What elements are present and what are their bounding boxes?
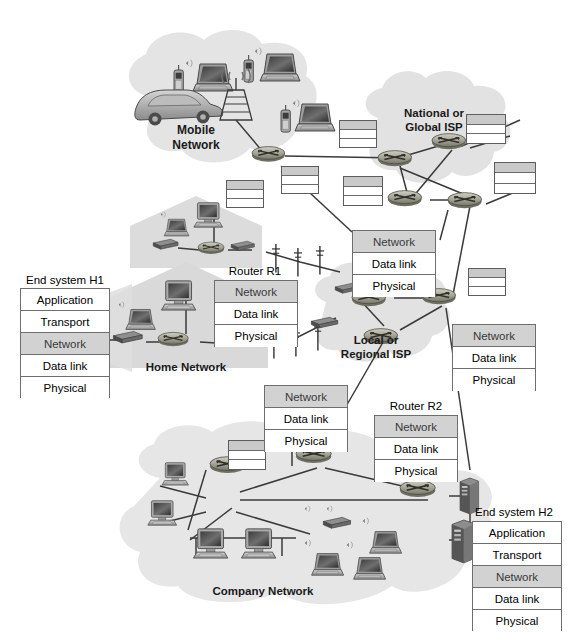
stack-title-r1: Router R1: [212, 265, 298, 277]
layer-physical: Physical: [21, 377, 109, 399]
protocol-stack-isp-egress: Network Data link Physical: [452, 324, 536, 391]
protocol-stack-h1: Application Transport Network Data link …: [20, 288, 110, 398]
layer-application: Application: [21, 289, 109, 311]
server-rack-icon: [281, 166, 319, 194]
server-rack-icon: [494, 162, 536, 194]
router-icon-mobile: [252, 147, 285, 162]
server-rack-icon: [468, 268, 506, 296]
layer-data-link: Data link: [265, 408, 347, 430]
protocol-stack-r2: Network Data link Physical: [374, 415, 458, 482]
protocol-stack-r1: Network Data link Physical: [214, 280, 298, 347]
region-label-home-network: Home Network: [131, 360, 241, 374]
layer-network: Network: [375, 416, 457, 438]
layer-network: Network: [215, 281, 297, 303]
stack-title-r2: Router R2: [370, 400, 462, 412]
layer-data-link: Data link: [215, 303, 297, 325]
stack-title-h2: End system H2: [464, 506, 564, 518]
layer-network: Network: [265, 386, 347, 408]
region-label-national-isp: National or Global ISP: [388, 106, 480, 134]
layer-network: Network: [453, 325, 535, 347]
layer-data-link: Data link: [375, 438, 457, 460]
layer-network: Network: [473, 566, 561, 588]
protocol-stack-company-ingress: Network Data link Physical: [264, 385, 348, 452]
layer-network: Network: [21, 333, 109, 355]
region-label-mobile-network: Mobile Network: [158, 123, 234, 152]
cell-tower-icon: [220, 69, 252, 120]
stack-title-h1: End system H1: [18, 274, 112, 286]
layer-physical: Physical: [473, 610, 561, 632]
layer-data-link: Data link: [453, 347, 535, 369]
server-rack-icon: [228, 440, 266, 470]
layer-application: Application: [473, 522, 561, 544]
server-rack-icon: [226, 180, 264, 208]
server-tower-icon: [452, 520, 474, 563]
server-rack-icon: [343, 176, 383, 206]
layer-physical: Physical: [375, 460, 457, 482]
layer-physical: Physical: [353, 275, 435, 297]
car-icon: [135, 90, 223, 126]
layer-transport: Transport: [21, 311, 109, 333]
layer-network: Network: [353, 231, 435, 253]
region-label-local-isp: Local or Regional ISP: [328, 333, 424, 361]
protocol-stack-isp-ingress: Network Data link Physical: [352, 230, 436, 297]
layer-physical: Physical: [265, 430, 347, 452]
layer-data-link: Data link: [21, 355, 109, 377]
layer-data-link: Data link: [353, 253, 435, 275]
server-rack-icon: [339, 120, 377, 148]
national-isp-routers: [378, 134, 482, 209]
layer-physical: Physical: [453, 369, 535, 391]
network-diagram-canvas: Mobile Network National or Global ISP Lo…: [0, 0, 583, 640]
region-label-company-network: Company Network: [198, 584, 328, 598]
layer-transport: Transport: [473, 544, 561, 566]
layer-physical: Physical: [215, 325, 297, 347]
layer-data-link: Data link: [473, 588, 561, 610]
protocol-stack-h2: Application Transport Network Data link …: [472, 521, 562, 631]
